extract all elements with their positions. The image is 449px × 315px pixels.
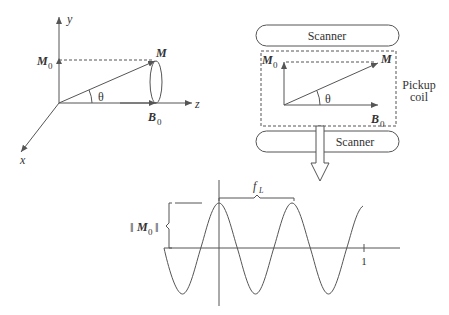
amplitude-bars-left: ‖ [130,220,134,235]
theta-arc-right [317,91,320,105]
theta-label: θ [98,90,104,104]
m0-arrow-head [56,58,62,64]
b0-label: B [147,110,156,124]
frequency-label: f [253,179,258,193]
x-axis-label: x [19,153,26,167]
frequency-brace [219,195,294,201]
y-axis-label: y [66,12,73,26]
signal-plot: 1 f L ‖ M 0 ‖ [130,179,400,306]
pickup-coil-label-line2: coil [410,90,429,104]
z-axis-label: z [194,97,200,111]
x-axis [21,103,59,152]
frequency-label-sub: L [258,186,264,195]
m-label-right: M [380,52,392,66]
b0-label-sub: 0 [157,117,162,127]
right-scanner-diagram: Scanner Pickup coil θ M M 0 B 0 Scanner [256,25,436,181]
theta-label-right: θ [325,92,331,106]
m-label: M [155,46,167,60]
bottom-scanner-label: Scanner [336,135,375,149]
theta-arc [89,90,92,103]
m-vector-right [284,63,378,105]
m0-label-sub: 0 [48,61,53,71]
amplitude-label: M [136,220,148,234]
m0-label-right: M [261,53,273,67]
amplitude-bars-right: ‖ [155,220,159,235]
amplitude-brace [166,203,172,248]
m-vector [59,61,155,103]
bottom-scanner [256,131,399,152]
m0-label-right-sub: 0 [273,60,278,70]
time-tick-label: 1 [361,255,367,267]
m0-label: M [36,54,48,68]
b0-label-right-sub: 0 [380,119,385,129]
precession-cone-ellipse [150,61,162,103]
left-coordinate-diagram: y z x θ M M 0 B 0 [19,12,200,167]
mri-signal-diagram: y z x θ M M 0 B 0 Scanner Pickup coil [0,0,449,315]
b0-label-right: B [370,112,379,126]
top-scanner-label: Scanner [308,29,347,43]
amplitude-label-sub: 0 [148,227,153,237]
